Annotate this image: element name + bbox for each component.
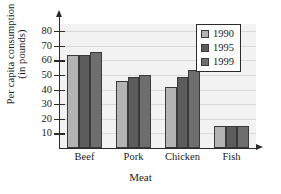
bar-chart-figure: Per capita consumption (in pounds) 10203… (0, 0, 281, 194)
bar-pork-1995 (128, 77, 140, 148)
legend-swatch-icon-1999 (201, 58, 209, 66)
bar-beef-1999 (90, 52, 102, 148)
legend-item-1995: 1995 (201, 42, 234, 54)
y-axis-tick-label: 80 (28, 26, 52, 37)
y-axis-tick (54, 90, 65, 91)
x-axis-tick-label-fish: Fish (192, 152, 272, 163)
y-axis-tick (54, 60, 65, 61)
legend-swatch-icon-1995 (201, 44, 209, 52)
y-axis-tick (54, 31, 65, 32)
legend-label-1999: 1999 (213, 57, 234, 68)
bar-pork-1990 (116, 81, 128, 148)
y-axis-tick-label: 20 (28, 114, 52, 125)
y-axis-tick (54, 133, 65, 134)
bar-fish-1990 (214, 126, 226, 148)
y-axis-arrow-icon (56, 10, 62, 17)
y-axis-tick-label: 10 (28, 128, 52, 139)
bar-beef-1990 (67, 55, 79, 148)
bar-chicken-1999 (188, 70, 200, 148)
x-axis-arrow-icon (256, 144, 263, 150)
y-axis-tick (54, 119, 65, 120)
y-axis-tick-labels: 1020304050607080 (24, 0, 52, 194)
bar-fish-1995 (226, 126, 238, 148)
legend-label-1990: 1990 (213, 29, 234, 40)
legend: 199019951999 (196, 24, 241, 72)
legend-label-1995: 1995 (213, 43, 234, 54)
bar-group-pork (116, 24, 151, 148)
y-axis-tick-label: 40 (28, 85, 52, 96)
legend-swatch-icon-1990 (201, 30, 209, 38)
y-axis-tick (54, 46, 65, 47)
y-axis-tick (54, 75, 65, 76)
x-axis-line (59, 148, 257, 149)
y-axis-tick-label: 50 (28, 70, 52, 81)
bar-pork-1999 (139, 75, 151, 148)
x-axis-title: Meat (0, 171, 281, 183)
y-axis-tick-label: 60 (28, 55, 52, 66)
bar-group-beef (67, 24, 102, 148)
legend-item-1990: 1990 (201, 28, 234, 40)
legend-item-1999: 1999 (201, 56, 234, 68)
y-axis-line (59, 16, 60, 149)
bar-group-chicken (165, 24, 200, 148)
bar-chicken-1995 (177, 77, 189, 148)
bar-chicken-1990 (165, 87, 177, 148)
y-axis-tick (54, 104, 65, 105)
y-axis-tick-label: 70 (28, 41, 52, 52)
bar-beef-1995 (79, 55, 91, 148)
bar-fish-1999 (237, 126, 249, 148)
y-axis-tick-label: 30 (28, 99, 52, 110)
